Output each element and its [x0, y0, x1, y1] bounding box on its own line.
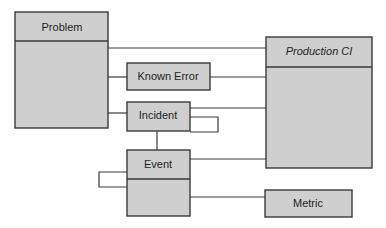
- metric-label: Metric: [293, 197, 323, 209]
- event-label: Event: [144, 158, 172, 170]
- connector-incident-self-loop: [190, 117, 218, 132]
- entity-incident[interactable]: Incident: [127, 102, 190, 131]
- entity-event[interactable]: Event: [127, 150, 190, 216]
- entity-metric[interactable]: Metric: [265, 190, 352, 217]
- connector-event-self-loop: [99, 172, 127, 187]
- incident-label: Incident: [139, 109, 178, 121]
- known-error-label: Known Error: [137, 70, 198, 82]
- problem-label: Problem: [42, 21, 83, 33]
- entity-relationship-diagram: Problem Known Error Incident Event Produ…: [0, 0, 386, 228]
- production-ci-label: Production CI: [286, 45, 353, 57]
- entity-known-error[interactable]: Known Error: [127, 63, 210, 90]
- entity-production-ci[interactable]: Production CI: [266, 37, 372, 168]
- entity-problem[interactable]: Problem: [15, 12, 108, 128]
